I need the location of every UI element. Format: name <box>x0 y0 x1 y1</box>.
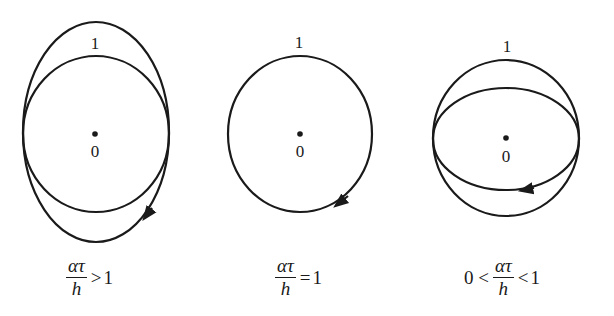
origin-dot <box>503 135 509 141</box>
fraction-numerator: ατ <box>275 256 296 276</box>
fraction-denominator: h <box>70 279 84 299</box>
relation-symbol: < <box>518 267 529 289</box>
panel-greater: 1 0 <box>23 22 169 242</box>
fraction-numerator: ατ <box>493 256 514 276</box>
origin-dot <box>297 131 303 137</box>
caption-value: 1 <box>104 267 114 289</box>
relation-symbol: = <box>300 267 311 289</box>
panel-equal: 1 0 <box>228 33 372 212</box>
fraction-denominator: h <box>279 279 293 299</box>
caption-equal: ατ h = 1 <box>273 256 322 299</box>
fraction: ατ h <box>66 256 87 299</box>
caption-prefix: 0 < <box>464 267 489 289</box>
relation-symbol: > <box>91 267 102 289</box>
panel-between: 1 0 <box>433 37 579 216</box>
caption-value: 1 <box>313 267 323 289</box>
caption-value: 1 <box>530 267 540 289</box>
origin-label: 0 <box>502 147 511 166</box>
fraction: ατ h <box>493 256 514 299</box>
fraction-numerator: ατ <box>66 256 87 276</box>
point-one-label: 1 <box>91 34 100 53</box>
fraction: ατ h <box>275 256 296 299</box>
origin-label: 0 <box>296 142 305 161</box>
caption-greater: ατ h > 1 <box>64 256 113 299</box>
fraction-denominator: h <box>497 279 511 299</box>
point-one-label: 1 <box>295 33 304 52</box>
origin-dot <box>92 131 98 137</box>
point-one-label: 1 <box>503 37 512 56</box>
caption-between: 0 < ατ h < 1 <box>462 256 540 299</box>
origin-label: 0 <box>91 142 100 161</box>
